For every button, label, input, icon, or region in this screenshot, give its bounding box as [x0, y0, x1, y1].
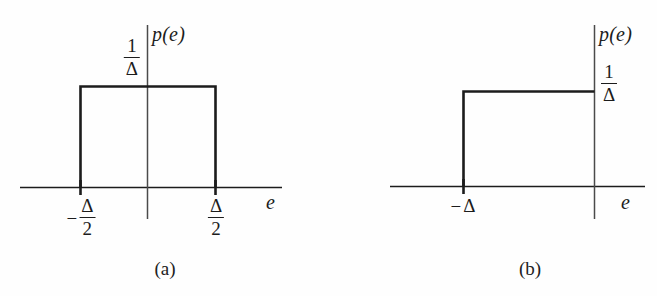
panel-a-x-tick-negative-numerator: Δ [79, 196, 95, 218]
panel-a-x-tick-positive-denominator: 2 [208, 218, 224, 239]
figure-uniform-quantization-error-pdfs: p(e) 1 Δ − Δ 2 Δ 2 e [0, 0, 657, 296]
panel-b-x-tick-label-negative-delta: − Δ [451, 196, 476, 215]
panel-a-x-axis-label: e [266, 192, 275, 212]
panel-b-pdf-curve [464, 92, 595, 187]
panel-a-height-numerator: 1 [124, 36, 140, 58]
panel-a-height-label: 1 Δ [124, 36, 140, 79]
panel-b-caption: (b) [519, 258, 541, 280]
panel-a-x-tick-label-negative: − Δ 2 [67, 196, 96, 239]
panel-a-x-tick-positive-numerator: Δ [208, 196, 224, 218]
panel-b-height-denominator: Δ [601, 84, 617, 105]
panel-a: p(e) 1 Δ − Δ 2 Δ 2 e [0, 0, 330, 296]
panel-b-y-axis-label: p(e) [599, 24, 632, 44]
panel-b-x-tick-negative-sign: − [451, 197, 462, 216]
panel-b-x-tick-negative-symbol: Δ [463, 196, 475, 215]
panel-a-height-denominator: Δ [124, 58, 140, 79]
panel-b-height-numerator: 1 [601, 62, 617, 84]
panel-a-x-tick-label-positive: Δ 2 [208, 196, 224, 239]
panel-a-x-tick-negative-sign: − [67, 209, 78, 228]
panel-b-height-fraction: 1 Δ [601, 62, 617, 105]
panel-a-y-axis-label: p(e) [152, 24, 185, 44]
panel-b-height-label: 1 Δ [601, 62, 617, 105]
panel-a-x-tick-negative-denominator: 2 [79, 218, 95, 239]
panel-b-x-axis-label: e [621, 192, 630, 212]
panel-a-height-fraction: 1 Δ [124, 36, 140, 79]
panel-b: p(e) 1 Δ − Δ e (b) [330, 0, 657, 296]
panel-a-caption: (a) [154, 258, 175, 280]
